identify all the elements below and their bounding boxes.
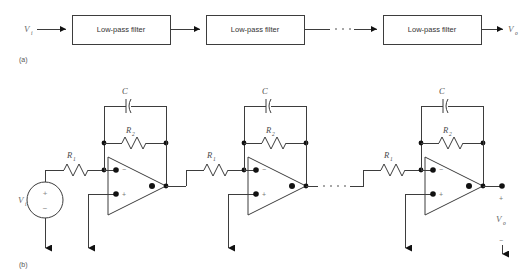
circuit-ellipsis xyxy=(323,185,346,187)
stage-3-c-label: C xyxy=(439,86,445,96)
stage-3-c-plate-right xyxy=(446,99,448,113)
block-input-label: V xyxy=(24,24,31,34)
opamp-stage-1: R 1 R 2 C xyxy=(60,86,186,248)
stage-2-r2-body xyxy=(262,137,286,149)
stage-2-noninverting-terminal xyxy=(253,191,259,197)
block-diagram-group: V i Low-pass filter Low-pass filter xyxy=(19,15,518,64)
voltage-source: + − V i xyxy=(18,170,63,248)
stage-2-r1-label-sub: 1 xyxy=(213,156,216,162)
stage-1-r1-label-sub: 1 xyxy=(73,156,76,162)
block-lowpass-1-label: Low-pass filter xyxy=(97,25,146,34)
stage-1-noninverting-terminal xyxy=(113,191,119,197)
output-terminal-positive xyxy=(499,183,505,189)
output-minus: − xyxy=(499,237,503,244)
block-lowpass-3-label: Low-pass filter xyxy=(408,25,457,34)
output-plus: + xyxy=(499,195,503,202)
stage-2-c-plate-right xyxy=(269,99,271,113)
stage-1-c-label: C xyxy=(122,86,128,96)
block-lowpass-2-label: Low-pass filter xyxy=(231,25,280,34)
stage-1-opamp-output-dot xyxy=(149,183,155,189)
stage-2-r1-label: R xyxy=(206,150,213,160)
stage-1-c-plate-right xyxy=(129,99,131,113)
stage-3-r2-label-sub: 2 xyxy=(449,131,452,137)
opamp-stage-2: R 1 R 2 C xyxy=(186,86,318,248)
stage-1-opamp-triangle[interactable] xyxy=(108,157,166,215)
stage-1-r2-label: R xyxy=(125,125,132,135)
output-label: V xyxy=(496,214,503,224)
stage-3-r1-body xyxy=(381,164,405,176)
stage-3-noninverting-terminal xyxy=(430,191,436,197)
figure-caption-a: (a) xyxy=(19,56,28,64)
source-plus: + xyxy=(43,189,48,198)
source-minus: − xyxy=(43,204,48,213)
block-input-label-sub: i xyxy=(31,30,33,36)
stage-3-r2-label: R xyxy=(442,125,449,135)
stage-1-r1-body xyxy=(64,164,88,176)
stage-3-noninverting-sign: + xyxy=(439,191,443,198)
stage-3-inverting-terminal xyxy=(430,167,436,173)
figure-canvas: V i Low-pass filter Low-pass filter xyxy=(0,0,527,277)
stage-2-opamp-output-dot xyxy=(289,183,295,189)
source-top-lead xyxy=(45,170,60,182)
stage-2-r1-body xyxy=(204,164,228,176)
stage-1-noninverting-sign: + xyxy=(122,191,126,198)
stage-3-opamp-output-dot xyxy=(466,183,472,189)
block-output-label: V xyxy=(508,24,515,34)
stage-2-noninverting-sign: + xyxy=(262,191,266,198)
output-label-sub: o xyxy=(503,220,506,226)
stage-2-r2-label: R xyxy=(265,125,272,135)
opamp-stage-3: R 1 R 2 C xyxy=(350,86,485,248)
circuit-figure: V i Low-pass filter Low-pass filter xyxy=(0,0,527,277)
stage-1-inverting-sign: − xyxy=(122,166,126,173)
output-port: + V o − xyxy=(483,183,506,254)
stage-3-inverting-sign: − xyxy=(439,166,443,173)
figure-caption-b: (b) xyxy=(19,261,28,269)
circuit-group: + − V i R 1 xyxy=(18,86,506,269)
stage-2-input-link xyxy=(186,170,200,186)
block-output-label-sub: o xyxy=(515,30,518,36)
stage-1-r2-label-sub: 2 xyxy=(132,131,135,137)
stage-3-input-link xyxy=(350,170,377,186)
stage-3-r2-body xyxy=(439,137,463,149)
stage-3-opamp-triangle[interactable] xyxy=(425,157,483,215)
stage-1-inverting-terminal xyxy=(113,167,119,173)
stage-3-r1-label: R xyxy=(383,150,390,160)
stage-1-r2-body xyxy=(122,137,146,149)
stage-2-c-label: C xyxy=(262,86,268,96)
stage-1-r1-label: R xyxy=(66,150,73,160)
stage-3-r1-label-sub: 1 xyxy=(390,156,393,162)
stage-2-r2-label-sub: 2 xyxy=(272,131,275,137)
source-label: V xyxy=(18,195,25,205)
stage-2-inverting-sign: − xyxy=(262,166,266,173)
block-ellipsis xyxy=(335,28,351,30)
stage-2-opamp-triangle[interactable] xyxy=(248,157,306,215)
stage-2-inverting-terminal xyxy=(253,167,259,173)
